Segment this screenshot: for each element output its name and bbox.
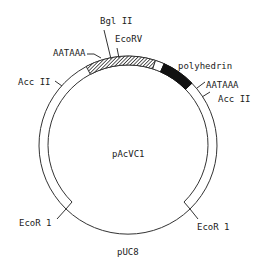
hatched-region <box>86 56 155 74</box>
band-end-right <box>184 202 190 209</box>
label-center-pacvc1: pAcVC1 <box>112 149 145 159</box>
aataaa-right-tick <box>197 82 205 88</box>
label-acc2-right: Acc II <box>218 94 251 104</box>
label-acc2-left: Acc II <box>18 77 51 87</box>
bgl2-tick <box>104 30 111 59</box>
acc2-right-tick <box>202 92 210 97</box>
ecor1-right-tick <box>190 209 198 219</box>
ecor1-left-tick <box>57 209 66 219</box>
label-aataaa-left: AATAAA <box>53 48 86 58</box>
viral-band <box>39 56 217 209</box>
label-ecor1-right: EcoR 1 <box>197 222 230 232</box>
plasmid-map: Bgl II EcoRV AATAAA polyhedrin AATAAA Ac… <box>0 0 260 264</box>
aataaa-left-tick <box>94 54 101 58</box>
label-puc8: pUC8 <box>117 247 139 257</box>
band-outer-arc <box>39 56 217 209</box>
puc8-arc <box>66 209 190 234</box>
label-ecor1-left: EcoR 1 <box>19 218 52 228</box>
acc2-left-tick <box>55 81 62 86</box>
band-end-left <box>66 202 72 209</box>
label-ecorv: EcoRV <box>115 34 143 44</box>
label-aataaa-right: AATAAA <box>206 80 239 90</box>
label-bgl2: Bgl II <box>100 16 133 26</box>
label-polyhedrin: polyhedrin <box>178 61 232 71</box>
